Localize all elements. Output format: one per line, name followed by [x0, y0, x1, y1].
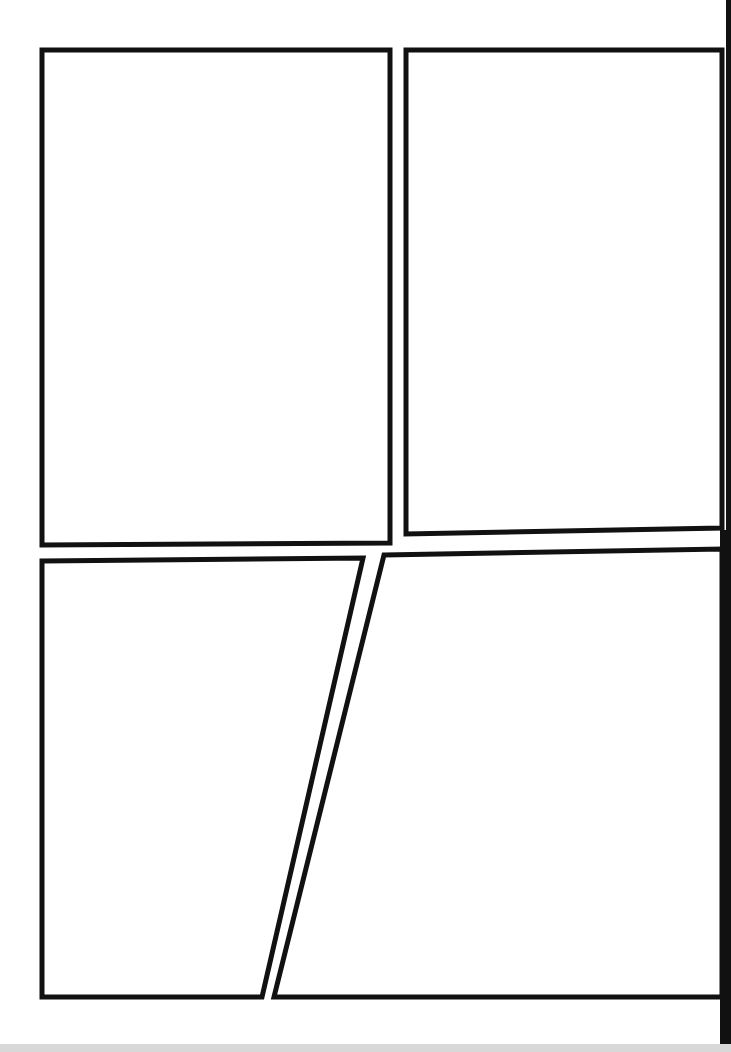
- panel-1: [42, 50, 390, 545]
- bottom-edge-shadow: [0, 1044, 731, 1052]
- comic-page: [0, 0, 731, 1052]
- right-edge-band: [720, 530, 731, 1052]
- panel-2: [406, 50, 722, 534]
- right-edge-line: [726, 0, 731, 540]
